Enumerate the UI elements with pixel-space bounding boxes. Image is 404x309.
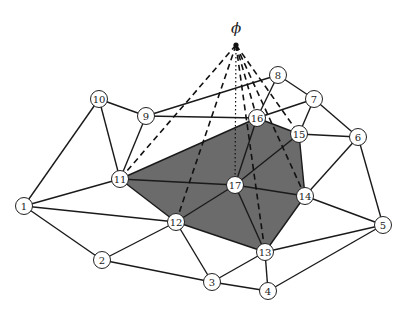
- edge-6-5: [358, 137, 383, 225]
- edge-1-11: [24, 179, 120, 206]
- apex-dashed-edge-15: [236, 45, 299, 134]
- node-label: 13: [259, 247, 272, 258]
- node-14: 14: [297, 188, 314, 205]
- node-label: 12: [170, 217, 183, 228]
- edge-10-11: [99, 99, 120, 179]
- node-6: 6: [350, 129, 367, 146]
- node-1: 1: [16, 198, 33, 215]
- node-4: 4: [260, 283, 277, 300]
- node-label: 4: [265, 286, 271, 297]
- node-label: 5: [380, 220, 386, 231]
- apex-dashed-edge-16: [236, 45, 257, 118]
- edge-1-2: [24, 206, 102, 260]
- node-8: 8: [270, 67, 287, 84]
- apex-point: [233, 42, 238, 47]
- node-11: 11: [112, 171, 129, 188]
- node-7: 7: [306, 91, 323, 108]
- node-5: 5: [375, 217, 392, 234]
- node-label: 16: [251, 113, 264, 124]
- node-15: 15: [291, 126, 308, 143]
- node-label: 17: [229, 180, 242, 191]
- apex-vertex: ϕ: [231, 19, 241, 48]
- node-16: 16: [249, 110, 266, 127]
- edge-4-5: [268, 225, 383, 291]
- edge-13-5: [265, 225, 383, 252]
- node-label: 14: [299, 191, 312, 202]
- edge-1-12: [24, 206, 176, 222]
- apex-label: ϕ: [231, 19, 241, 37]
- edge-1-10: [24, 99, 99, 206]
- node-label: 10: [93, 94, 106, 105]
- node-label: 15: [293, 129, 306, 140]
- node-label: 2: [99, 255, 105, 266]
- node-12: 12: [168, 214, 185, 231]
- node-9: 9: [138, 108, 155, 125]
- edges: [24, 75, 383, 291]
- node-label: 1: [21, 201, 27, 212]
- node-label: 7: [311, 94, 317, 105]
- node-13: 13: [257, 244, 274, 261]
- edge-13-3: [212, 252, 265, 282]
- node-label: 6: [355, 132, 361, 143]
- graph-canvas: 1234567891011121314151617 ϕ: [0, 0, 404, 309]
- node-label: 8: [275, 70, 281, 81]
- node-17: 17: [227, 177, 244, 194]
- edge-14-5: [305, 196, 383, 225]
- node-2: 2: [94, 252, 111, 269]
- edge-9-16: [146, 116, 257, 118]
- node-label: 11: [114, 174, 127, 185]
- node-10: 10: [91, 91, 108, 108]
- edge-6-14: [305, 137, 358, 196]
- edge-2-12: [102, 222, 176, 260]
- node-label: 3: [209, 277, 215, 288]
- graph-diagram: 1234567891011121314151617 ϕ: [0, 0, 404, 309]
- node-3: 3: [204, 274, 221, 291]
- node-label: 9: [143, 111, 149, 122]
- edge-2-3: [102, 260, 212, 282]
